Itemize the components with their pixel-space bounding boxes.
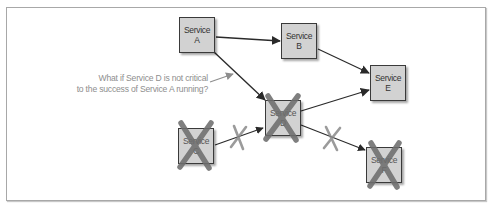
service-d-failed-icon <box>266 96 298 140</box>
service-f-failed-icon <box>370 143 399 187</box>
annotation-line2: to the success of Service A running? <box>74 84 208 95</box>
service-c-failed-icon <box>180 123 211 168</box>
annotation-line1: What if Service D is not critical <box>74 73 208 84</box>
failure-overlays <box>0 0 491 205</box>
annotation-question: What if Service D is not critical to the… <box>74 73 208 95</box>
